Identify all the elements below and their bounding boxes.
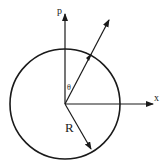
x-axis-label: x bbox=[154, 92, 159, 103]
circle-diagram: p x θ R bbox=[0, 0, 166, 167]
theta-label: θ bbox=[67, 83, 71, 92]
p-axis-label: p bbox=[57, 5, 62, 16]
direction-arrow bbox=[65, 20, 109, 104]
radius-label: R bbox=[65, 120, 74, 135]
